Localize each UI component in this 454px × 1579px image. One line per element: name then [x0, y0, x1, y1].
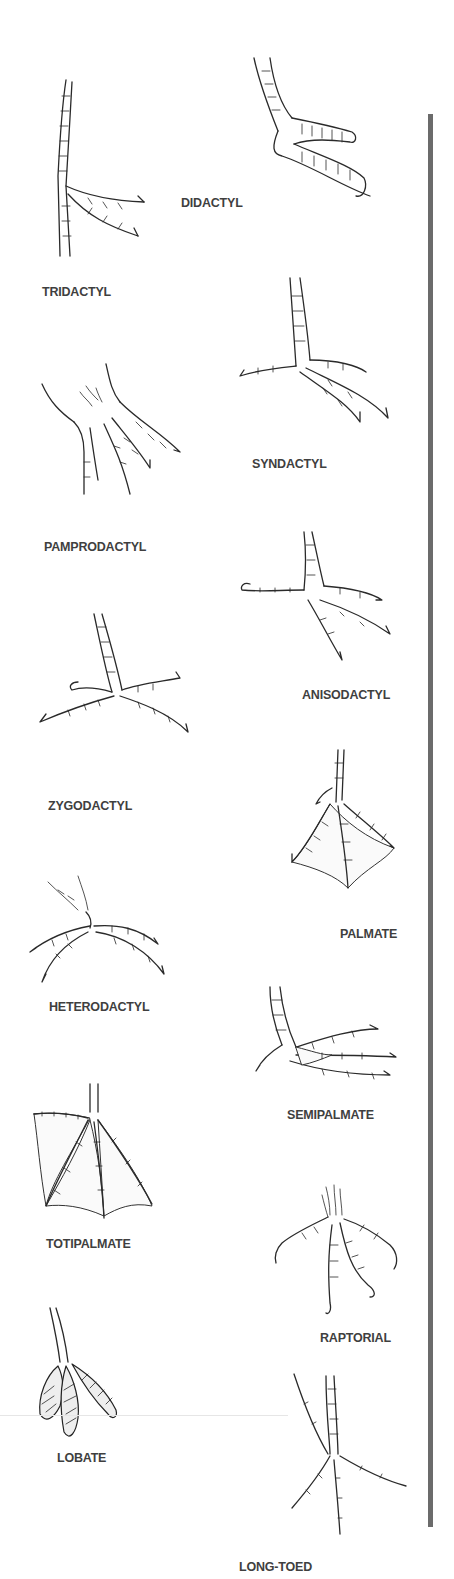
tridactyl-foot-illustration: [48, 76, 148, 256]
totipalmate-foot-illustration: [32, 1082, 156, 1222]
palmate-foot-illustration: [286, 748, 398, 896]
semipalmate-foot-illustration: [252, 985, 400, 1083]
label-syndactyl: SYNDACTYL: [252, 457, 327, 471]
pamprodactyl-foot-illustration: [40, 362, 185, 497]
label-raptorial: RAPTORIAL: [320, 1331, 391, 1345]
label-zygodactyl: ZYGODACTYL: [48, 799, 132, 813]
zygodactyl-foot-illustration: [38, 612, 190, 734]
didactyl-foot-illustration: [252, 56, 377, 206]
label-anisodactyl: ANISODACTYL: [302, 688, 390, 702]
vertical-divider-bar: [428, 114, 433, 1527]
long-toed-foot-illustration: [290, 1374, 410, 1536]
heterodactyl-foot-illustration: [28, 876, 170, 984]
label-pamprodactyl: PAMPRODACTYL: [44, 540, 146, 554]
label-heterodactyl: HETERODACTYL: [49, 1000, 149, 1014]
label-didactyl: DIDACTYL: [181, 196, 243, 210]
faint-scan-line: [0, 1415, 288, 1416]
label-long-toed: LONG-TOED: [239, 1560, 312, 1574]
label-tridactyl: TRIDACTYL: [42, 285, 111, 299]
label-totipalmate: TOTIPALMATE: [46, 1237, 131, 1251]
label-semipalmate: SEMIPALMATE: [287, 1108, 374, 1122]
syndactyl-foot-illustration: [238, 276, 393, 421]
anisodactyl-foot-illustration: [240, 530, 395, 665]
label-palmate: PALMATE: [340, 927, 397, 941]
lobate-foot-illustration: [36, 1306, 120, 1444]
label-lobate: LOBATE: [57, 1451, 106, 1465]
bird-feet-diagram: TRIDACTYL DIDACTYL SYNDACTYL: [0, 0, 454, 1579]
raptorial-foot-illustration: [272, 1185, 404, 1315]
